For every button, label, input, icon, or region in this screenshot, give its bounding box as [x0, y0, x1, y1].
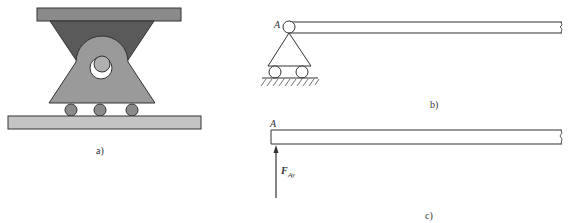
beam-break-line [560, 130, 562, 144]
support-roller-right [296, 66, 308, 78]
support-roller-left [269, 66, 281, 78]
ground-hatching [261, 79, 319, 86]
beam-break-line [560, 22, 562, 33]
hinge-pin [94, 56, 110, 72]
top-plate [37, 8, 181, 21]
reaction-force-arrowhead-icon [274, 145, 279, 153]
base-plate [8, 116, 201, 129]
point-a-label: A [273, 19, 281, 30]
force-label: F [280, 165, 288, 176]
panel-b-roller-support-schematic: A b) [261, 19, 562, 111]
roller-1 [65, 104, 77, 116]
force-subscript: Ay [287, 171, 296, 179]
roller-3 [126, 104, 138, 116]
hinge-circle [283, 21, 295, 33]
panel-b-label: b) [430, 99, 438, 111]
support-diagram-figure: a) A b) A F [0, 0, 572, 223]
panel-c-free-body-diagram: A F Ay c) [269, 118, 562, 222]
roller-2 [94, 104, 106, 116]
panel-a-label: a) [96, 145, 104, 157]
support-triangle [268, 33, 311, 66]
point-a-label: A [269, 118, 277, 129]
panel-a-roller-support-illustration: a) [8, 8, 201, 157]
panel-c-label: c) [425, 210, 433, 222]
